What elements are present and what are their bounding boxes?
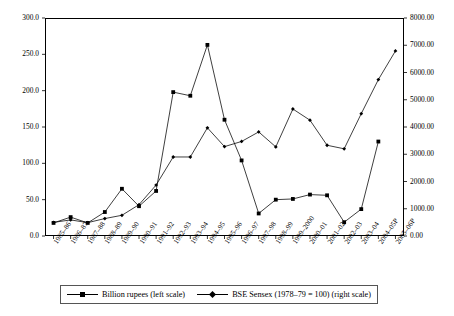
y-tick-label-right: 1000.00	[410, 205, 434, 213]
y-tick-label-right: 7000.00	[410, 41, 434, 49]
y-tick-label-right: 5000.00	[410, 96, 434, 104]
legend-item-billion-rupees: Billion rupees (left scale)	[67, 290, 185, 299]
y-tick-label-left: 50.0	[0, 196, 39, 204]
y-tick-label-left: 250.0	[0, 50, 39, 58]
legend-item-bse-sensex: BSE Sensex (1978–79 = 100) (right scale)	[197, 290, 371, 299]
y-tick-label-left: 100.0	[0, 159, 39, 167]
legend-marker-square	[67, 292, 98, 297]
y-tick-label-right: 8000.00	[410, 14, 434, 22]
y-tick-label-right: 2000.00	[410, 178, 434, 186]
y-tick-label-left: 200.0	[0, 87, 39, 95]
plot-area	[45, 18, 404, 236]
y-tick-label-right: 0.00	[410, 232, 423, 240]
y-tick-label-left: 0.0	[0, 232, 39, 240]
y-tick-label-right: 6000.00	[410, 69, 434, 77]
chart-figure: 0.050.0100.0150.0200.0250.0300.0 0.00100…	[0, 0, 454, 316]
legend-label: BSE Sensex (1978–79 = 100) (right scale)	[232, 290, 371, 299]
legend-marker-diamond	[197, 292, 228, 297]
y-tick-label-left: 300.0	[0, 14, 39, 22]
chart-legend: Billion rupees (left scale) BSE Sensex (…	[60, 285, 378, 304]
y-tick-label-right: 4000.00	[410, 123, 434, 131]
y-tick-label-right: 3000.00	[410, 150, 434, 158]
legend-label: Billion rupees (left scale)	[102, 290, 185, 299]
y-tick-label-left: 150.0	[0, 123, 39, 131]
